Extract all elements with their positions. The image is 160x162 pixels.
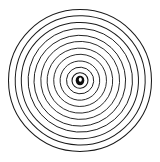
concentric-circles-figure — [0, 0, 160, 162]
center-dot-highlight — [79, 77, 82, 81]
concentric-circles-svg — [0, 0, 160, 162]
